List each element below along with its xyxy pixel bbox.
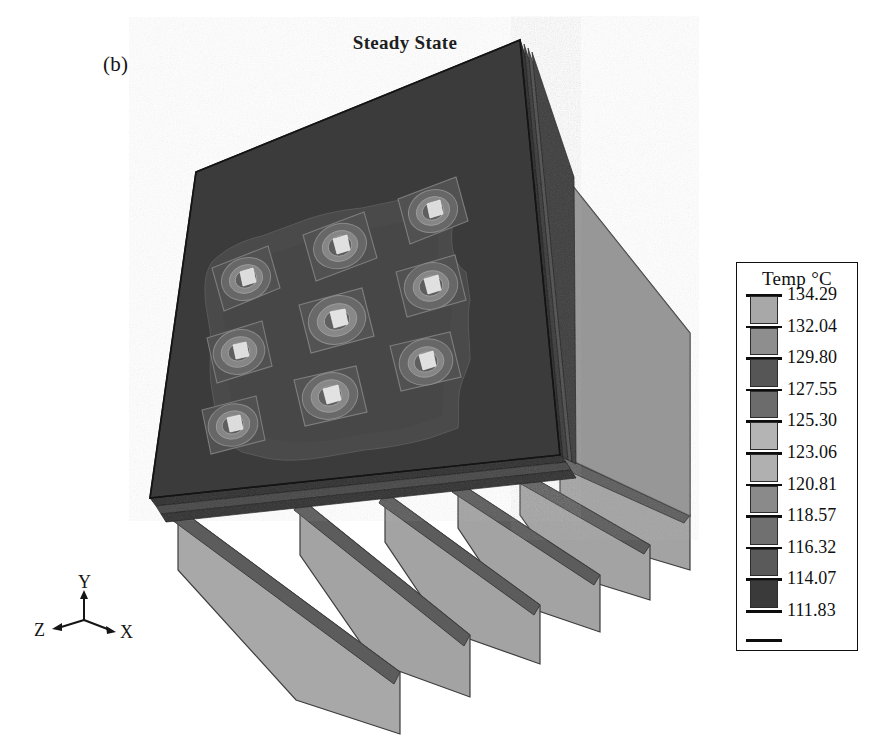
legend-value: 120.81 <box>787 474 837 495</box>
legend-value: 134.29 <box>787 284 837 305</box>
figure-canvas: (b) Steady State <box>0 0 886 750</box>
legend-tick <box>746 639 782 642</box>
legend-swatch <box>750 296 778 324</box>
legend-scale: 134.29132.04129.80127.55125.30123.06120.… <box>737 294 857 646</box>
legend-value: 127.55 <box>787 379 837 400</box>
legend-swatch <box>750 549 778 577</box>
x-axis-arrow <box>106 626 116 634</box>
legend-swatch <box>750 328 778 356</box>
legend-value: 123.06 <box>787 442 837 463</box>
legend-value: 114.07 <box>787 568 836 589</box>
legend-swatch <box>750 422 778 450</box>
legend-swatch <box>750 517 778 545</box>
legend-value: 111.83 <box>787 600 836 621</box>
legend-swatch <box>750 454 778 482</box>
legend-row: 111.83 <box>737 610 857 642</box>
z-axis-arrow <box>52 623 62 631</box>
temperature-legend: Temp °C 134.29132.04129.80127.55125.3012… <box>736 262 858 651</box>
z-axis-label: Z <box>34 620 45 640</box>
legend-value: 125.30 <box>787 410 837 431</box>
y-axis-label: Y <box>78 572 91 592</box>
x-axis-label: X <box>120 622 133 642</box>
legend-value: 129.80 <box>787 347 837 368</box>
legend-swatch <box>750 580 778 608</box>
side-face-shade <box>560 170 690 516</box>
legend-tick <box>746 610 782 613</box>
legend-value: 118.57 <box>787 505 836 526</box>
axis-triad: Y X Z <box>22 572 152 652</box>
legend-value: 132.04 <box>787 316 837 337</box>
x-axis-line <box>84 620 110 630</box>
legend-swatch <box>750 391 778 419</box>
legend-swatch <box>750 359 778 387</box>
legend-value: 116.32 <box>787 537 836 558</box>
legend-swatch <box>750 486 778 514</box>
